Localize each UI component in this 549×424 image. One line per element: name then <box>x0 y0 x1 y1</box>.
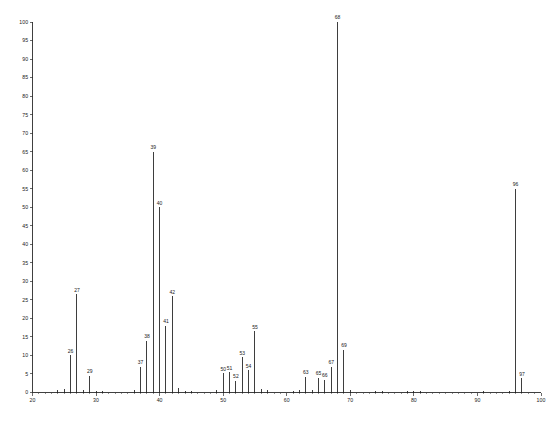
peak-label: 42 <box>170 289 176 295</box>
y-axis-tick-label: 45 <box>22 223 28 229</box>
peak-label: 51 <box>227 365 233 371</box>
peak-label: 54 <box>246 363 252 369</box>
y-axis-tick-label: 60 <box>22 167 28 173</box>
mass-spectrum-chart: 0510152025303540455055606570758085909510… <box>0 0 549 424</box>
y-axis-tick-label: 70 <box>22 130 28 136</box>
x-axis: 2030405060708090100 <box>30 393 546 404</box>
y-axis-tick-label: 80 <box>22 93 28 99</box>
y-axis-tick-label: 50 <box>22 204 28 210</box>
peak-label: 65 <box>316 370 322 376</box>
peak-label: 39 <box>150 144 156 150</box>
y-axis-tick-label: 10 <box>22 352 28 358</box>
peak-label: 96 <box>513 181 519 187</box>
peak-label: 68 <box>335 14 341 20</box>
peak-label: 97 <box>519 371 525 377</box>
y-axis: 0510152025303540455055606570758085909510… <box>19 19 32 396</box>
peak-label: 50 <box>220 366 226 372</box>
y-axis-tick-label: 15 <box>22 334 28 340</box>
spectrum-plot-area: 0510152025303540455055606570758085909510… <box>0 0 549 424</box>
peak-label: 53 <box>239 350 245 356</box>
x-axis-tick-label: 30 <box>93 397 99 403</box>
peak-label: 52 <box>233 373 239 379</box>
peak-series <box>58 22 522 393</box>
peak-labels: 2627293738394041425051525354556365666768… <box>68 14 525 379</box>
x-axis-tick-label: 70 <box>347 397 353 403</box>
y-axis-tick-label: 75 <box>22 112 28 118</box>
y-axis-tick-label: 25 <box>22 297 28 303</box>
x-axis-tick-label: 90 <box>474 397 480 403</box>
x-axis-tick-label: 100 <box>537 397 546 403</box>
peak-label: 55 <box>252 324 258 330</box>
peak-label: 26 <box>68 348 74 354</box>
y-axis-tick-label: 35 <box>22 260 28 266</box>
y-axis-tick-label: 30 <box>22 278 28 284</box>
y-axis-tick-label: 85 <box>22 74 28 80</box>
x-axis-tick-label: 40 <box>157 397 163 403</box>
peak-label: 40 <box>157 200 163 206</box>
peak-label: 37 <box>138 359 144 365</box>
y-axis-tick-label: 95 <box>22 37 28 43</box>
peak-label: 27 <box>74 287 80 293</box>
y-axis-tick-label: 40 <box>22 241 28 247</box>
x-axis-tick-label: 50 <box>220 397 226 403</box>
x-axis-tick-label: 20 <box>30 397 36 403</box>
y-axis-tick-label: 55 <box>22 186 28 192</box>
y-axis-tick-label: 100 <box>19 19 28 25</box>
y-axis-tick-label: 65 <box>22 149 28 155</box>
y-axis-tick-label: 0 <box>25 389 28 395</box>
peak-label: 41 <box>163 318 169 324</box>
peak-label: 29 <box>87 368 93 374</box>
peak-label: 63 <box>303 369 309 375</box>
peak-label: 67 <box>328 359 334 365</box>
peak-label: 66 <box>322 372 328 378</box>
x-axis-tick-label: 80 <box>411 397 417 403</box>
y-axis-tick-label: 20 <box>22 315 28 321</box>
peak-label: 38 <box>144 333 150 339</box>
y-axis-tick-label: 5 <box>25 371 28 377</box>
peak-label: 69 <box>341 342 347 348</box>
x-axis-tick-label: 60 <box>284 397 290 403</box>
y-axis-tick-label: 90 <box>22 56 28 62</box>
